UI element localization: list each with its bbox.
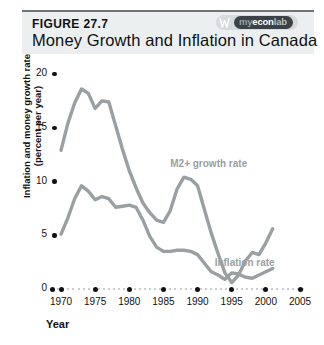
x-axis-dot xyxy=(215,288,217,290)
x-axis-dot xyxy=(205,288,207,290)
y-tick-dot-15 xyxy=(52,126,57,131)
x-tick-label-1975: 1975 xyxy=(78,296,112,307)
x-axis-dot xyxy=(246,288,248,290)
x-tick-label-2000: 2000 xyxy=(249,296,283,307)
x-axis-dot xyxy=(118,288,120,290)
x-axis-dot xyxy=(139,288,141,290)
x-tick-dot-1975 xyxy=(93,287,98,292)
x-tick-label-2005: 2005 xyxy=(283,296,317,307)
x-axis-dot xyxy=(200,288,202,290)
y-tick-dot-5 xyxy=(52,233,57,238)
series-label-m2-growth-rate: M2+ growth rate xyxy=(170,158,247,169)
x-tick-dot-2000 xyxy=(263,287,268,292)
series-line-m2-growth-rate xyxy=(61,89,273,282)
figure-page: FIGURE 27.7 Money Growth and Inflation i… xyxy=(0,0,324,345)
x-axis-dot xyxy=(154,288,156,290)
x-axis-dot xyxy=(72,288,74,290)
x-axis-dot xyxy=(108,288,110,290)
x-axis-dot xyxy=(149,288,151,290)
x-axis-dot xyxy=(88,288,90,290)
x-tick-dot-1980 xyxy=(127,287,132,292)
x-tick-dot-1990 xyxy=(195,287,200,292)
x-tick-dot-2005 xyxy=(298,287,303,292)
x-axis-dot xyxy=(241,288,243,290)
x-axis-dot xyxy=(144,288,146,290)
y-tick-dot-20 xyxy=(52,72,57,77)
chart-plot-area: Inflation and money growth rate (percent… xyxy=(0,0,324,345)
x-axis-dot xyxy=(113,288,115,290)
x-tick-label-1995: 1995 xyxy=(215,296,249,307)
y-tick-label-20: 20 xyxy=(27,67,47,78)
x-tick-label-1980: 1980 xyxy=(112,296,146,307)
x-axis-dot xyxy=(236,288,238,290)
x-tick-label-1970: 1970 xyxy=(44,296,78,307)
x-axis-dot xyxy=(210,288,212,290)
x-axis-dot xyxy=(78,288,80,290)
x-axis-title: Year xyxy=(46,318,69,330)
x-axis-dot xyxy=(292,288,294,290)
x-axis-dot xyxy=(123,288,125,290)
x-tick-label-1990: 1990 xyxy=(181,296,215,307)
y-tick-dot-0 xyxy=(50,287,55,292)
x-axis-dot xyxy=(185,288,187,290)
y-tick-dot-10 xyxy=(52,179,57,184)
x-axis-dot xyxy=(169,288,171,290)
x-tick-dot-1985 xyxy=(161,287,166,292)
series-curves xyxy=(0,0,324,345)
y-tick-label-10: 10 xyxy=(27,175,47,186)
series-label-inflation-rate: Inflation rate xyxy=(215,257,275,268)
x-axis-dot xyxy=(180,288,182,290)
x-axis-dot xyxy=(134,288,136,290)
x-axis-dot xyxy=(287,288,289,290)
y-tick-label-5: 5 xyxy=(27,228,47,239)
x-axis-dot xyxy=(251,288,253,290)
x-axis-dot xyxy=(83,288,85,290)
x-axis-dot xyxy=(98,288,100,290)
x-tick-dot-1970 xyxy=(59,287,64,292)
x-axis-dot xyxy=(256,288,258,290)
x-axis-dot xyxy=(282,288,284,290)
x-axis-dot xyxy=(225,288,227,290)
x-tick-dot-1995 xyxy=(229,287,234,292)
x-axis-dot xyxy=(220,288,222,290)
x-axis-dot xyxy=(103,288,105,290)
x-axis-dot xyxy=(67,288,69,290)
y-tick-label-0: 0 xyxy=(27,282,47,293)
x-axis-dot xyxy=(190,288,192,290)
x-axis-dot xyxy=(276,288,278,290)
x-axis-dot xyxy=(271,288,273,290)
x-axis-dot xyxy=(174,288,176,290)
y-tick-label-15: 15 xyxy=(27,121,47,132)
x-tick-label-1985: 1985 xyxy=(146,296,180,307)
